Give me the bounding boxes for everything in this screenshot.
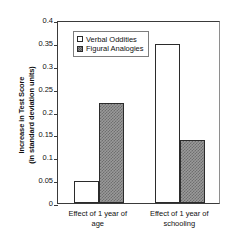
x-axis-category-label-line: Effect of 1 year of (139, 209, 221, 219)
y-axis-tick-label: 0.25 (31, 86, 53, 94)
y-axis-tick-label: 0.15 (31, 131, 53, 139)
bar-figural-analogies-group-2 (180, 140, 205, 203)
y-axis-tick-labels: 00.050.10.150.20.250.30.350.4 (28, 0, 53, 248)
y-axis-tick-label: 0.35 (31, 40, 53, 48)
y-axis-tick-mark (54, 114, 58, 115)
bar-verbal-oddities-group-2 (155, 44, 180, 203)
y-axis-tick-mark (54, 91, 58, 92)
y-axis-tick-mark (54, 68, 58, 69)
y-axis-tick-mark (54, 205, 58, 206)
x-axis-category-label-line: Effect of 1 year of (57, 209, 139, 219)
y-axis-tick-mark (54, 22, 58, 23)
plot-area: Verbal Oddities Figural Analogies (57, 21, 220, 204)
x-axis-category-label-1: Effect of 1 year ofage (57, 209, 139, 243)
y-axis-tick-label: 0 (31, 200, 53, 208)
y-axis-tick-mark (54, 45, 58, 46)
y-axis-tick-mark (54, 159, 58, 160)
x-axis-category-label-line: schooling (139, 219, 221, 229)
y-axis-tick-mark (54, 182, 58, 183)
y-axis-tick-label: 0.2 (31, 109, 53, 117)
y-axis-tick-label: 0.4 (31, 17, 53, 25)
bar-chart: Increase in Test Score (in standard devi… (0, 0, 234, 248)
x-axis-category-labels: Effect of 1 year ofageEffect of 1 year o… (57, 209, 220, 243)
legend-item-verbal-oddities: Verbal Oddities (77, 35, 144, 44)
y-axis-title-line-1: Increase in Test Score (17, 27, 27, 203)
y-axis-tick-mark (54, 136, 58, 137)
x-axis-category-label-line: age (57, 219, 139, 229)
legend: Verbal Oddities Figural Analogies (73, 31, 149, 57)
bar-verbal-oddities-group-1 (74, 181, 99, 203)
legend-label-figural-analogies: Figural Analogies (86, 44, 144, 53)
bar-figural-analogies-group-1 (99, 103, 124, 203)
legend-item-figural-analogies: Figural Analogies (77, 44, 144, 53)
legend-swatch-icon-verbal-oddities (77, 36, 83, 42)
y-axis-tick-label: 0.1 (31, 154, 53, 162)
legend-swatch-icon-figural-analogies (77, 46, 83, 52)
y-axis-tick-label: 0.05 (31, 177, 53, 185)
legend-label-verbal-oddities: Verbal Oddities (86, 35, 137, 44)
x-axis-category-label-2: Effect of 1 year ofschooling (139, 209, 221, 243)
y-axis-tick-label: 0.3 (31, 63, 53, 71)
